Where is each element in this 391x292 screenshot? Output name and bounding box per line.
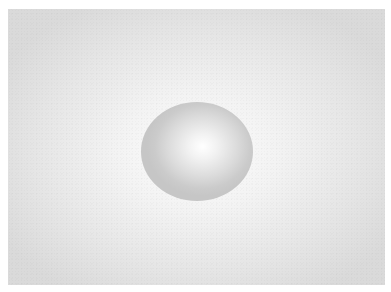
backdrop-panel (8, 9, 385, 285)
shaded-sphere (141, 102, 253, 201)
